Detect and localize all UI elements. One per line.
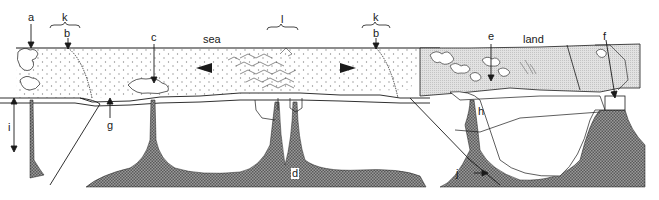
label-f: f: [603, 31, 606, 42]
land-layer: [420, 44, 640, 96]
brackets: [50, 22, 390, 30]
label-e: e: [488, 31, 494, 42]
sea-water-layer: [16, 48, 440, 98]
label-d: d: [291, 168, 299, 179]
mantle-body-d: [86, 100, 426, 187]
cross-section-diagram: [0, 0, 659, 200]
label-j: j: [456, 168, 458, 179]
label-h: h: [478, 106, 484, 117]
label-b-right: b: [373, 28, 379, 39]
label-sea: sea: [203, 34, 221, 45]
left-feeder: [30, 100, 44, 178]
label-i: i: [8, 122, 10, 133]
label-k-right: k: [373, 12, 379, 23]
label-b-left: b: [64, 28, 70, 39]
label-l: l: [281, 14, 283, 25]
label-k-left: k: [62, 12, 68, 23]
label-c: c: [151, 32, 157, 43]
label-g: g: [107, 120, 113, 131]
label-a: a: [28, 12, 34, 23]
label-land: land: [523, 34, 544, 45]
